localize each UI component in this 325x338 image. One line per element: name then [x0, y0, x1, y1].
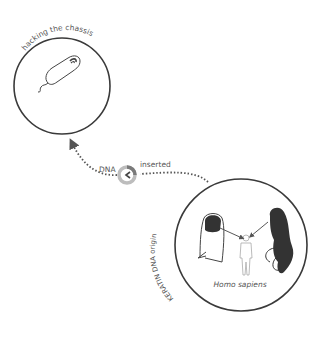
human-figure-icon [240, 235, 252, 275]
dna-label: DNA [99, 165, 116, 174]
origin-node: KERATIN DNA origin Homo sapiens [149, 179, 307, 311]
insertion-ring-icon [119, 167, 135, 183]
origin-label: KERATIN DNA origin [149, 233, 175, 303]
inserted-path [140, 172, 208, 182]
fingernail-icon [198, 214, 224, 263]
hair-icon [266, 208, 294, 274]
chassis-circle [14, 38, 110, 134]
inserted-label: inserted [140, 160, 171, 169]
hair-to-human-arrow [251, 222, 268, 236]
diagram-canvas: hacking the chassis DNA inserted KERATIN… [0, 0, 325, 338]
chassis-node: hacking the chassis [14, 23, 110, 134]
species-label: Homo sapiens [213, 280, 266, 289]
bacterium-icon [38, 56, 80, 92]
nail-to-human-arrow [220, 228, 242, 238]
